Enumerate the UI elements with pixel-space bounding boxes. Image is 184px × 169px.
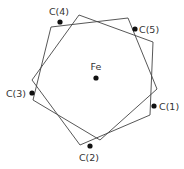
c2-label: C(2) bbox=[79, 152, 99, 163]
carbon-atom-c2: C(2) bbox=[79, 143, 99, 163]
c4-dot bbox=[57, 19, 62, 24]
ferrocene-diagram: Fe C(1) C(2) C(3) C(4) C(5) bbox=[0, 0, 184, 169]
carbon-atom-c4: C(4) bbox=[49, 6, 69, 25]
c5-dot bbox=[132, 26, 137, 31]
carbon-atom-c1: C(1) bbox=[151, 101, 179, 112]
c3-dot bbox=[29, 90, 34, 95]
fe-label: Fe bbox=[91, 61, 102, 72]
c1-label: C(1) bbox=[159, 101, 179, 112]
c4-label: C(4) bbox=[49, 6, 69, 17]
carbon-atom-c5: C(5) bbox=[132, 24, 159, 35]
c2-dot bbox=[87, 143, 92, 148]
fe-dot bbox=[93, 75, 98, 80]
c3-label: C(3) bbox=[6, 88, 26, 99]
carbon-atom-c3: C(3) bbox=[6, 88, 35, 99]
c5-label: C(5) bbox=[139, 24, 159, 35]
c1-dot bbox=[151, 103, 156, 108]
fe-atom: Fe bbox=[91, 61, 102, 81]
